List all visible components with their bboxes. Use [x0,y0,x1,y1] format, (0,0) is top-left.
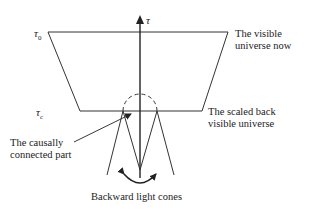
causally-connected-label: The causally connected part [10,137,72,161]
visible-universe-now-label: The visible universe now [235,28,291,52]
right-edge [202,32,228,111]
time-axis [136,15,144,178]
tau-c-label: τc [36,106,43,123]
backward-light-cones-label: Backward light cones [91,191,182,203]
scaled-back-universe-label: The scaled back visible universe [208,106,276,130]
left-edge [48,32,80,111]
axis-label-tau: τ [146,14,150,26]
axis-arrow-icon [136,15,144,24]
tau-now-label: τ0 [34,27,41,44]
universe-trapezoid [48,32,228,111]
causal-pointer [74,114,131,142]
diagram-canvas: τ τ0 τc The visible universe now The sca… [0,0,322,211]
